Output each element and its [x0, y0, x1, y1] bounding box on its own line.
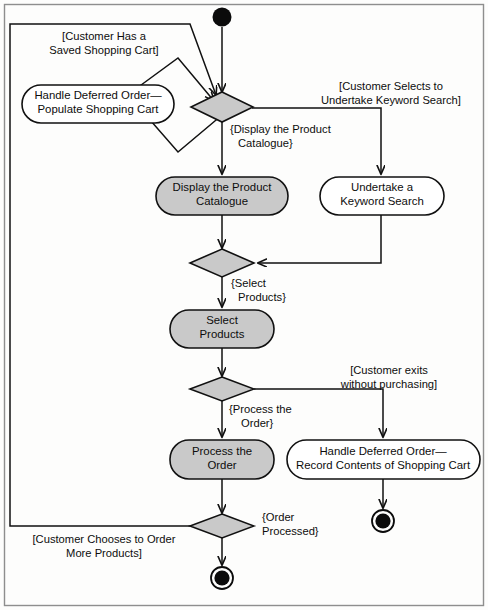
activity-handle-deferred-record-label-1: Handle Deferred Order—	[319, 445, 447, 457]
guard-process-order-line-1: {Process the	[229, 403, 292, 415]
guard-display-catalogue-line-1: {Display the Product	[230, 123, 332, 135]
guard-order-processed-line-2: Processed}	[262, 525, 319, 537]
guard-display-catalogue-line-2: Catalogue}	[238, 137, 293, 149]
activity-handle-deferred-populate-label-1: Handle Deferred Order—	[34, 89, 162, 101]
guard-customer-exits-line-2: without purchasing]	[340, 378, 437, 390]
initial-node	[213, 8, 232, 27]
activity-diagram-canvas: Handle Deferred Order— Populate Shopping…	[0, 0, 488, 610]
guard-customer-exits-line-1: [Customer exits	[350, 364, 428, 376]
guard-order-more-line-1: [Customer Chooses to Order	[32, 533, 175, 545]
activity-display-catalogue-label-1: Display the Product	[173, 181, 273, 193]
final-node-bottom	[214, 570, 229, 585]
activity-process-order-label-1: Process the	[192, 445, 252, 457]
guard-order-processed-line-1: {Order	[262, 511, 295, 523]
guard-order-more-line-2: More Products]	[66, 547, 142, 559]
activity-process-order-label-2: Order	[207, 459, 236, 471]
decision-node-1	[191, 92, 253, 122]
activity-diagram-svg: Handle Deferred Order— Populate Shopping…	[0, 0, 488, 610]
activity-select-products-label-1: Select	[206, 314, 238, 326]
activity-display-catalogue-label-2: Catalogue	[196, 195, 248, 207]
decision-node-3	[190, 377, 254, 401]
guard-select-products-line-2: Products}	[238, 291, 286, 303]
guard-select-products-line-1: {Select	[231, 277, 267, 289]
guard-process-order-line-2: Order}	[241, 417, 274, 429]
activity-handle-deferred-record-label-2: Record Contents of Shopping Cart	[296, 459, 471, 471]
final-node-right	[375, 513, 390, 528]
activity-handle-deferred-populate-label-2: Populate Shopping Cart	[38, 103, 160, 115]
flow-keyword-search-to-decision-2	[258, 215, 381, 263]
guard-keyword-search-line-1: [Customer Selects to	[339, 80, 443, 92]
activity-keyword-search-label-2: Keyword Search	[340, 195, 424, 207]
decision-node-2	[190, 249, 254, 277]
activity-select-products-label-2: Products	[200, 328, 245, 340]
guard-keyword-search-line-2: Undertake Keyword Search]	[321, 94, 461, 106]
guard-saved-cart-line-1: [Customer Has a	[62, 30, 147, 42]
activity-keyword-search-label-1: Undertake a	[351, 181, 414, 193]
decision-node-4	[190, 514, 254, 538]
guard-saved-cart-line-2: Saved Shopping Cart]	[49, 44, 158, 56]
